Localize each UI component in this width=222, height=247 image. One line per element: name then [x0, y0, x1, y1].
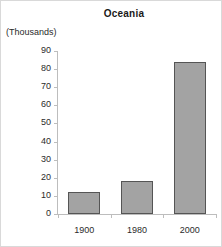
y-axis-tick-label: 30: [41, 154, 51, 164]
y-axis-tick-label: 10: [41, 190, 51, 200]
y-axis-tick-mark: [54, 69, 58, 70]
y-axis-tick-label: 70: [41, 81, 51, 91]
x-axis-tick-mark: [163, 214, 164, 218]
y-axis-tick-label: 20: [41, 172, 51, 182]
y-axis-tick-label: 80: [41, 63, 51, 73]
y-axis-tick-mark: [54, 105, 58, 106]
y-axis-tick-mark: [54, 87, 58, 88]
y-axis-tick-mark: [54, 142, 58, 143]
y-axis-units-label: (Thousands): [6, 27, 57, 37]
x-axis-tick-label: 2000: [163, 225, 216, 235]
y-axis-tick-label: 50: [41, 117, 51, 127]
x-axis-tick-label: 1980: [111, 225, 164, 235]
bar: [121, 181, 153, 214]
plot-area: 0102030405060708090: [58, 51, 216, 214]
y-axis-tick-mark: [54, 123, 58, 124]
y-axis-tick-mark: [54, 51, 58, 52]
bar: [174, 62, 206, 214]
chart-title: Oceania: [1, 8, 222, 19]
y-axis-tick-mark: [54, 160, 58, 161]
x-axis-tick-mark: [216, 214, 217, 218]
y-axis-tick-mark: [54, 196, 58, 197]
y-axis-tick-mark: [54, 178, 58, 179]
bar-chart-oceania: Oceania (Thousands) 0102030405060708090 …: [0, 0, 222, 247]
bar: [68, 192, 100, 214]
x-axis-tick-label: 1900: [58, 225, 111, 235]
y-axis-tick-label: 40: [41, 136, 51, 146]
x-axis-tick-mark: [58, 214, 59, 218]
y-axis-tick: 0: [58, 214, 216, 215]
x-axis-tick-mark: [111, 214, 112, 218]
y-axis-tick-label: 60: [41, 99, 51, 109]
y-axis-tick-label: 0: [46, 208, 51, 218]
y-axis-tick: 90: [58, 51, 216, 52]
y-axis-tick-label: 90: [41, 45, 51, 55]
